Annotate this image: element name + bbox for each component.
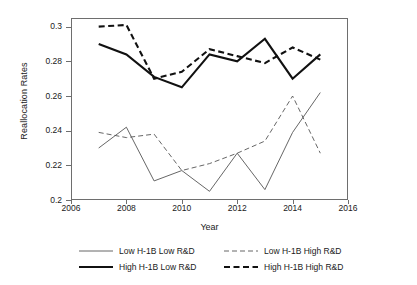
y-tick: 0.28 (28, 56, 62, 67)
x-tick-mark (348, 200, 349, 204)
legend-entry-low-h1b-high-rd: Low H-1B High R&D (223, 243, 368, 259)
y-axis-title: Reallocation Rates (19, 31, 29, 171)
legend-label: High H-1B High R&D (264, 262, 343, 272)
series-line (99, 96, 321, 171)
legend-entry-low-h1b-low-rd: Low H-1B Low R&D (78, 243, 223, 259)
chart-legend: Low H-1B Low R&D Low H-1B High R&D High … (78, 243, 368, 275)
y-tick-mark (66, 131, 71, 132)
legend-entry-high-h1b-high-rd: High H-1B High R&D (223, 259, 368, 275)
y-tick: 0.22 (28, 160, 62, 171)
y-tick: 0.26 (28, 91, 62, 102)
x-axis-title: Year (71, 222, 348, 232)
y-tick-mark (66, 96, 71, 97)
y-tick-mark (66, 27, 71, 28)
y-tick-label: 0.22 (28, 160, 62, 170)
y-tick-mark (66, 61, 71, 62)
y-tick-label: 0.26 (28, 91, 62, 101)
x-tick-label: 2016 (328, 203, 368, 213)
x-tick-label: 2006 (51, 203, 91, 213)
legend-line-swatch-thin-dashed (223, 245, 259, 257)
x-tick-label: 2012 (217, 203, 257, 213)
x-tick-label: 2010 (162, 203, 202, 213)
x-tick-label: 2008 (106, 203, 146, 213)
x-tick-mark (237, 200, 238, 204)
chart-figure: 0.20.220.240.260.280.3 20062008201020122… (0, 0, 417, 285)
legend-label: High H-1B Low R&D (119, 262, 196, 272)
x-tick-mark (71, 200, 72, 204)
legend-line-swatch-thin-solid (78, 245, 114, 257)
legend-label: Low H-1B Low R&D (119, 246, 195, 256)
series-line (99, 93, 321, 192)
series-line (99, 39, 321, 88)
x-tick-mark (182, 200, 183, 204)
x-tick-mark (293, 200, 294, 204)
y-tick: 0.3 (28, 21, 62, 32)
y-tick-mark (66, 165, 71, 166)
legend-line-swatch-thick-solid (78, 261, 114, 273)
x-tick-mark (126, 200, 127, 204)
y-tick: 0.24 (28, 125, 62, 136)
series-layer (99, 25, 321, 191)
y-tick-label: 0.28 (28, 56, 62, 66)
y-tick-label: 0.3 (28, 21, 62, 31)
legend-entry-high-h1b-low-rd: High H-1B Low R&D (78, 259, 223, 275)
chart-plot-svg (71, 18, 348, 200)
legend-row: High H-1B Low R&D High H-1B High R&D (78, 259, 368, 275)
legend-row: Low H-1B Low R&D Low H-1B High R&D (78, 243, 368, 259)
legend-line-swatch-thick-dashed (223, 261, 259, 273)
legend-label: Low H-1B High R&D (264, 246, 341, 256)
x-tick-label: 2014 (273, 203, 313, 213)
y-tick-label: 0.24 (28, 125, 62, 135)
